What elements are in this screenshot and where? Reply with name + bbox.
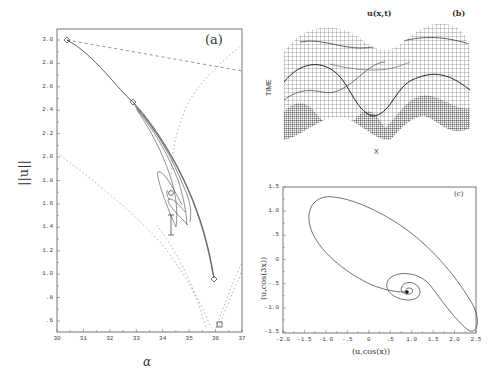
tick-label: 2.4 (31, 106, 53, 113)
tick-label: 1.2 (31, 247, 53, 254)
tick-label: 2.0 (31, 153, 53, 160)
tick-label: 1.0 (402, 336, 422, 343)
panel-a-markers (64, 37, 222, 327)
panel-a-xlabel: α (143, 355, 151, 369)
tick-label: .5 (257, 231, 279, 238)
tick-label: -.5 (257, 280, 279, 287)
tick-label: 1.4 (31, 223, 53, 230)
tick-label: .5 (380, 336, 400, 343)
tick-label: -.5 (337, 336, 357, 343)
tick-label: 35 (179, 335, 199, 342)
tick-label: 0 (359, 336, 379, 343)
wireframe-surface (284, 20, 470, 145)
tick-label: 30 (47, 335, 67, 342)
tick-label: 36 (206, 335, 226, 342)
solution-branch (67, 40, 214, 278)
figure-canvas (0, 0, 502, 371)
tick-label: 34 (153, 335, 173, 342)
tick-label: 1.0 (257, 207, 279, 214)
panel-c-x-ticks (283, 330, 476, 333)
tick-label: .6 (31, 317, 53, 324)
cusp-right-dotted-2 (219, 270, 242, 326)
tick-label: 1.8 (31, 177, 53, 184)
tick-label: 2.6 (31, 83, 53, 90)
oscillation-bundle-2 (135, 106, 191, 222)
panel-c-y-ticks (283, 187, 286, 332)
lower-left-dotted-curve-2 (157, 225, 206, 328)
panel-b-ylabel: TIME (265, 79, 272, 96)
tick-label: 2.2 (31, 130, 53, 137)
panel-c (283, 187, 477, 333)
tick-label: 1.5 (423, 336, 443, 343)
tick-label: 1.5 (257, 183, 279, 190)
tick-label: .8 (31, 294, 53, 301)
panel-c-frame (283, 187, 476, 333)
panel-c-xlabel: (u,cos(x)) (352, 347, 390, 356)
tick-label: -1.0 (316, 336, 336, 343)
tick-label: 2.0 (445, 336, 465, 343)
tick-label: -1.0 (257, 304, 279, 311)
right-dotted-curve (171, 44, 242, 175)
panel-c-tag: (c) (454, 190, 463, 198)
tick-label: 1.0 (31, 270, 53, 277)
tick-label: -2.0 (273, 336, 293, 343)
panel-b-title: u(x,t) (367, 8, 392, 18)
panel-a-y-ticks (57, 40, 60, 321)
oscillation-bundle-4 (137, 110, 177, 227)
lower-left-dotted-curve (57, 153, 211, 328)
tick-label: -1.5 (294, 336, 314, 343)
tick-label: 3.0 (31, 36, 53, 43)
tick-label: 32 (100, 335, 120, 342)
phase-endpoint (405, 290, 409, 294)
panel-a-x-ticks (57, 329, 242, 332)
tick-label: 37 (232, 335, 252, 342)
cusp-right-dotted (216, 262, 242, 328)
panel-b-xlabel: X (374, 148, 379, 155)
tick-label: 31 (73, 335, 93, 342)
panel-b (284, 20, 470, 145)
panel-a-tag: (a) (205, 32, 223, 47)
tick-label: 33 (126, 335, 146, 342)
tick-label: 1.6 (31, 200, 53, 207)
phase-trajectory (309, 197, 478, 331)
panel-c-ylabel: (u,cos(3x)) (259, 257, 268, 300)
marker-circle (169, 191, 174, 196)
panel-a-curves (57, 40, 242, 328)
panel-a (57, 29, 242, 332)
panel-b-tag: (b) (452, 8, 465, 18)
tick-label: 0 (257, 256, 279, 263)
tick-label: 2.8 (31, 59, 53, 66)
panel-a-ylabel: ||u|| (16, 160, 31, 186)
tick-label: 2.5 (466, 336, 486, 343)
tick-label: -1.5 (257, 328, 279, 335)
panel-a-frame (57, 29, 242, 332)
